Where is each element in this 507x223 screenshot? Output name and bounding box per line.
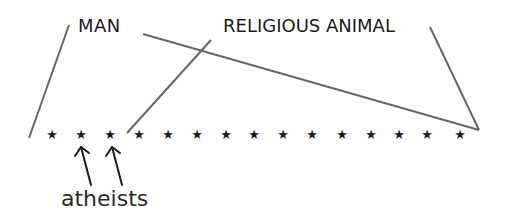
religious-left-line xyxy=(127,40,211,133)
star-icon: ★ xyxy=(365,128,377,141)
atheist-star-icon: ★ xyxy=(104,128,116,141)
atheist-arrow-1 xyxy=(75,147,91,185)
religious-right-line xyxy=(430,27,479,130)
star-icon: ★ xyxy=(191,128,203,141)
star-icon: ★ xyxy=(220,128,232,141)
star-icon: ★ xyxy=(421,128,433,141)
atheists-label: atheists xyxy=(61,188,148,210)
star-icon: ★ xyxy=(336,128,348,141)
man-right-line xyxy=(143,34,479,130)
religious-animal-label: RELIGIOUS ANIMAL xyxy=(223,17,395,35)
star-icon: ★ xyxy=(454,128,466,141)
star-icon: ★ xyxy=(248,128,260,141)
star-icon: ★ xyxy=(306,128,318,141)
star-icon: ★ xyxy=(133,128,145,141)
atheist-star-icon: ★ xyxy=(75,128,87,141)
star-icon: ★ xyxy=(162,128,174,141)
star-icon: ★ xyxy=(393,128,405,141)
man-left-line xyxy=(29,25,69,138)
star-icon: ★ xyxy=(46,128,58,141)
man-label: MAN xyxy=(78,17,121,35)
diagram-canvas: MAN RELIGIOUS ANIMAL atheists ★★★★★★★★★★… xyxy=(0,0,507,223)
atheist-arrow-2 xyxy=(106,147,122,185)
star-icon: ★ xyxy=(277,128,289,141)
